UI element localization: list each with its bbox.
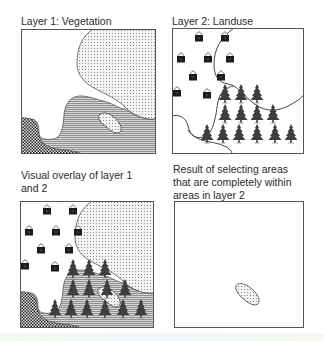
layer2-landuse-map [172, 28, 304, 154]
layer1-vegetation-map [21, 29, 156, 154]
overlay-title-line2: and 2 [21, 182, 132, 195]
result-title-line1: Result of selecting areas [173, 163, 291, 176]
bottom-band [0, 333, 324, 341]
overlay-caption: Visual overlay of layer 1 and 2 [21, 169, 132, 195]
layer1-title: Layer 1: Vegetation [21, 15, 112, 27]
layer2-caption: Layer 2: Landuse [172, 15, 253, 28]
overlay-title-line1: Visual overlay of layer 1 [21, 169, 132, 182]
result-title-line2: that are completely within [173, 176, 291, 189]
overlay-map [20, 201, 154, 328]
layer1-caption: Layer 1: Vegetation [21, 15, 112, 28]
result-map [174, 201, 304, 328]
result-caption: Result of selecting areas that are compl… [173, 163, 291, 202]
layer2-title: Layer 2: Landuse [172, 15, 253, 27]
